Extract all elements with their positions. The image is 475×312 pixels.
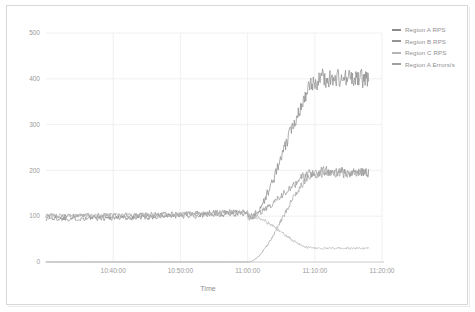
data-series-line	[46, 69, 369, 221]
legend-item-label: Region B RPS	[405, 38, 446, 45]
x-axis-tick-label: 11:00:00	[235, 267, 260, 274]
y-axis-tick-label: 100	[29, 212, 40, 219]
y-axis-tick-label: 0	[36, 258, 40, 265]
x-axis-tick-label: 10:50:00	[168, 267, 194, 274]
y-axis-tick-label: 500	[29, 29, 40, 36]
gridlines	[46, 33, 382, 262]
legend-item-label: Region A RPS	[405, 26, 445, 33]
x-axis-tick-label: 10:40:00	[101, 267, 127, 274]
chart-container: 5004003002001000 10:40:0010:50:0011:00:0…	[0, 0, 475, 312]
x-axis-tick-label: 11:10:00	[302, 267, 327, 274]
legend-item[interactable]: Region C RPS	[392, 47, 470, 59]
legend-item-label: Region A Errors/s	[405, 61, 455, 68]
chart-legend: Region A RPSRegion B RPSRegion C RPSRegi…	[392, 24, 470, 70]
y-axis-tick-label: 400	[29, 75, 40, 82]
y-axis-tick-label: 300	[29, 121, 40, 128]
y-axis-tick-labels: 5004003002001000	[29, 29, 40, 265]
y-axis-tick-label: 200	[29, 167, 40, 174]
x-axis-title: Time	[200, 285, 215, 292]
x-axis-tick-labels: 10:40:0010:50:0011:00:0011:10:0011:20:00	[101, 267, 395, 274]
legend-swatch-icon	[392, 40, 401, 42]
legend-swatch-icon	[392, 29, 401, 31]
legend-swatch-icon	[392, 52, 401, 54]
legend-item[interactable]: Region A Errors/s	[392, 59, 470, 71]
legend-item[interactable]: Region B RPS	[392, 36, 470, 48]
legend-swatch-icon	[392, 63, 401, 65]
legend-item-label: Region C RPS	[405, 49, 446, 56]
legend-item[interactable]: Region A RPS	[392, 24, 470, 36]
data-series-group	[46, 69, 369, 262]
x-axis-tick-label: 11:20:00	[370, 267, 395, 274]
